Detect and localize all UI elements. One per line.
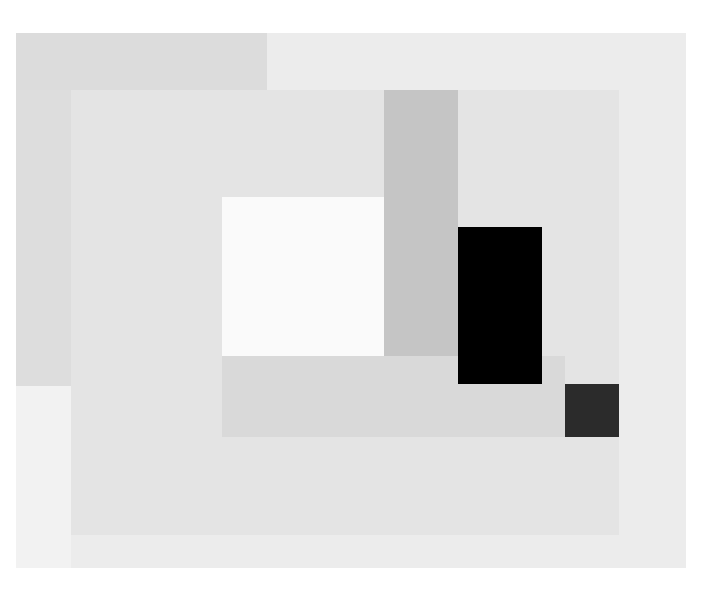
black-rectangle	[458, 227, 542, 384]
left-grey-strip	[16, 90, 71, 386]
dark-grey-square	[565, 384, 619, 437]
left-light-strip	[16, 386, 71, 568]
grey-vertical-bar	[384, 90, 458, 356]
top-left-grey-band	[16, 33, 267, 90]
white-square	[222, 197, 384, 356]
